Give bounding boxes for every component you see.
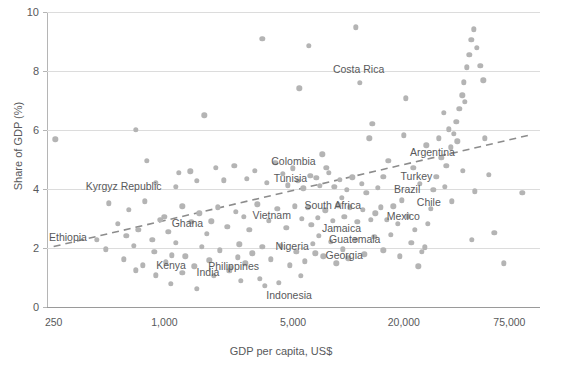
label-ethiopia: Ethiopia: [49, 231, 87, 242]
label-brazil: Brazil: [394, 183, 420, 194]
y-tick-label-6: 6: [5, 125, 39, 136]
x-axis-title: GDP per capita, US$: [0, 345, 562, 357]
y-tick-label-8: 8: [5, 66, 39, 77]
y-tick-label-0: 0: [5, 302, 39, 313]
y-tick-label-2: 2: [5, 243, 39, 254]
x-axis-line: [47, 307, 540, 308]
label-kenya: Kenya: [156, 260, 186, 271]
y-tick-label-4: 4: [5, 184, 39, 195]
x-tick-label-20000: 20,000: [388, 316, 420, 328]
label-south-africa: South Africa: [304, 199, 361, 210]
label-chile: Chile: [417, 197, 441, 208]
y-tick-label-10: 10: [5, 7, 39, 18]
label-vietnam: Vietnam: [253, 210, 291, 221]
y-tick-mark-0: [43, 307, 47, 308]
label-turkey: Turkey: [401, 170, 433, 181]
scatter-chart: Share of GDP (%) GDP per capita, US$ 024…: [0, 0, 562, 369]
label-ghana: Ghana: [172, 218, 204, 229]
label-india: India: [197, 267, 220, 278]
x-tick-label-5000: 5,000: [280, 316, 306, 328]
label-indonesia: Indonesia: [266, 289, 312, 300]
label-kyrgyz-republic: Kyrgyz Republic: [86, 180, 162, 191]
plot-area: Costa RicaArgentinaTurkeyBrazilColombiaT…: [47, 12, 540, 307]
x-tick-label-250: 250: [45, 316, 63, 328]
x-tick-label-1000: 1,000: [151, 316, 177, 328]
label-argentina: Argentina: [410, 146, 455, 157]
label-tunisia: Tunisia: [274, 172, 307, 183]
label-costa-rica: Costa Rica: [333, 63, 384, 74]
label-mexico: Mexico: [387, 211, 420, 222]
label-colombia: Colombia: [271, 155, 315, 166]
x-tick-label-75000: 75,000: [493, 316, 525, 328]
label-georgia: Georgia: [326, 250, 363, 261]
label-guatemala: Guatemala: [329, 233, 380, 244]
label-nigeria: Nigeria: [276, 240, 309, 251]
